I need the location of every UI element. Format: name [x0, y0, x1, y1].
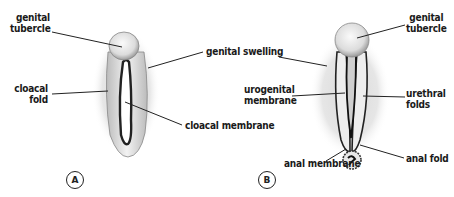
- label-genital-swelling: genital swelling: [206, 46, 283, 57]
- label-urethral-folds: urethral folds: [406, 88, 446, 110]
- label-genital-tubercle-b: genital tubercle: [406, 12, 447, 34]
- label-line: cloacal: [8, 83, 48, 94]
- label-urogenital-membrane: urogenital membrane: [244, 84, 292, 106]
- label-line: membrane: [244, 95, 292, 106]
- label-cloacal-fold: cloacal fold: [8, 83, 48, 105]
- panel-badge-b: B: [258, 171, 276, 189]
- genital-tubercle-a: [109, 32, 139, 60]
- label-line: urogenital: [244, 84, 292, 95]
- label-line: urethral: [406, 88, 446, 99]
- genital-tubercle-b: [335, 23, 369, 57]
- label-anal-membrane: anal membrane: [284, 158, 360, 169]
- label-line: genital: [406, 12, 447, 23]
- panel-badge-a: A: [66, 171, 84, 189]
- label-line: fold: [8, 94, 48, 105]
- label-genital-tubercle-a: genital tubercle: [10, 12, 50, 34]
- label-cloacal-membrane: cloacal membrane: [185, 120, 274, 131]
- panel-a-drawing: [92, 30, 160, 157]
- label-line: tubercle: [10, 23, 50, 34]
- label-anal-fold: anal fold: [406, 153, 449, 164]
- label-line: tubercle: [406, 23, 447, 34]
- embryo-genitalia-illustration: [0, 0, 454, 197]
- label-line: folds: [406, 99, 446, 110]
- label-line: genital: [10, 12, 50, 23]
